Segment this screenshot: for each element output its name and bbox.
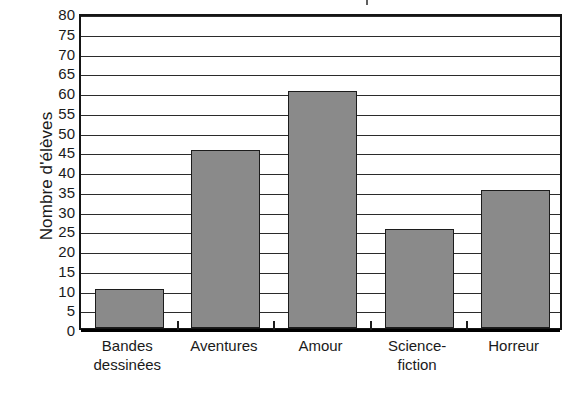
y-tick-label-30: 30 [58,204,75,219]
x-label-line-2: dessinées [69,355,186,374]
x-axis-tick-2 [273,321,275,330]
bar-horreur [481,190,550,328]
y-tick-label-50: 50 [58,125,75,140]
y-tick-label-45: 45 [58,145,75,160]
y-axis-tick-labels: 05101520253035404550556065707580 [40,0,75,393]
bar-amour [288,91,357,328]
y-tick-label-10: 10 [58,283,75,298]
x-label-line-1: Aventures [190,337,257,354]
y-tick-label-65: 65 [58,66,75,81]
x-label-line-2: fiction [359,355,476,374]
y-tick-label-40: 40 [58,165,75,180]
x-axis-category-labels: BandesdessinéesAventuresAmourScience-fic… [79,336,562,391]
x-label-line-1: Bandes [102,337,153,354]
x-label-line-1: Science- [388,337,446,354]
scan-artifact [366,0,368,5]
bar-science-fiction [385,229,454,328]
x-label-line-1: Horreur [488,337,539,354]
y-tick-label-55: 55 [58,105,75,120]
bars-layer [81,16,560,328]
x-axis-tick-4 [466,321,468,330]
y-tick-label-25: 25 [58,224,75,239]
y-tick-label-5: 5 [67,303,75,318]
x-axis-tick-3 [370,321,372,330]
y-tick-label-15: 15 [58,263,75,278]
plot-area [79,14,562,330]
y-tick-label-20: 20 [58,244,75,259]
bar-bandes-dessin-es [95,289,164,329]
y-tick-label-80: 80 [58,7,75,22]
y-tick-label-60: 60 [58,86,75,101]
bar-chart: Nombre d'élèves 051015202530354045505560… [0,0,584,393]
y-tick-label-70: 70 [58,46,75,61]
gridline-0 [81,329,560,332]
y-tick-label-35: 35 [58,184,75,199]
x-label-line-1: Amour [298,337,342,354]
x-axis-tick-1 [177,321,179,330]
bar-aventures [191,150,260,328]
x-label-horreur: Horreur [455,336,572,355]
y-tick-label-75: 75 [58,26,75,41]
